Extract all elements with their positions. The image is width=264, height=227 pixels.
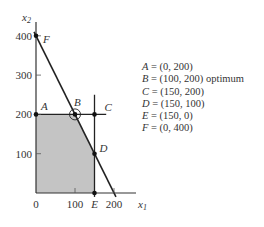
x-point-label: E	[90, 198, 98, 210]
legend-point-value: = (150, 100)	[150, 98, 205, 109]
y-tick-label: 200	[16, 108, 33, 120]
vertex-label: B	[74, 96, 81, 108]
vertex-point	[34, 34, 39, 39]
legend-point-name: D	[142, 98, 150, 109]
x1-axis-label: x1	[137, 198, 147, 212]
legend-entry: F = (0, 400)	[142, 122, 244, 134]
vertex-point	[34, 112, 39, 117]
vertex-label: F	[42, 33, 50, 45]
legend-point-value: = (150, 200)	[149, 86, 204, 97]
legend-entry: A = (0, 200)	[142, 61, 244, 73]
vertex-point	[92, 112, 97, 117]
vertex-label: C	[105, 101, 113, 113]
x2-axis-label: x2	[21, 11, 31, 25]
x-tick-label: 100	[67, 198, 84, 210]
y-tick-label: 400	[16, 30, 33, 42]
legend-entry: E = (150, 0)	[142, 110, 244, 122]
legend-point-value: = (0, 400)	[148, 122, 192, 133]
vertex-point	[92, 191, 97, 196]
vertex-point	[73, 112, 78, 117]
y-tick-label: 100	[16, 148, 33, 160]
legend-point-value: = (100, 200) optimum	[148, 73, 243, 84]
x-tick-label: 0	[33, 198, 39, 210]
vertex-point	[92, 151, 97, 156]
legend-point-value: = (0, 200)	[148, 61, 192, 72]
vertex-label: A	[40, 100, 48, 112]
vertex-label: D	[99, 142, 108, 154]
legend-entry: B = (100, 200) optimum	[142, 73, 244, 85]
y-tick-label: 300	[16, 69, 33, 81]
legend-point-value: = (150, 0)	[148, 110, 192, 121]
x-tick-label: 200	[106, 198, 123, 210]
feasible-region	[36, 114, 95, 193]
legend-point-name: C	[142, 86, 149, 97]
legend-entry: D = (150, 100)	[142, 98, 244, 110]
legend-entry: C = (150, 200)	[142, 86, 244, 98]
vertex-legend: A = (0, 200)B = (100, 200) optimumC = (1…	[142, 61, 244, 135]
